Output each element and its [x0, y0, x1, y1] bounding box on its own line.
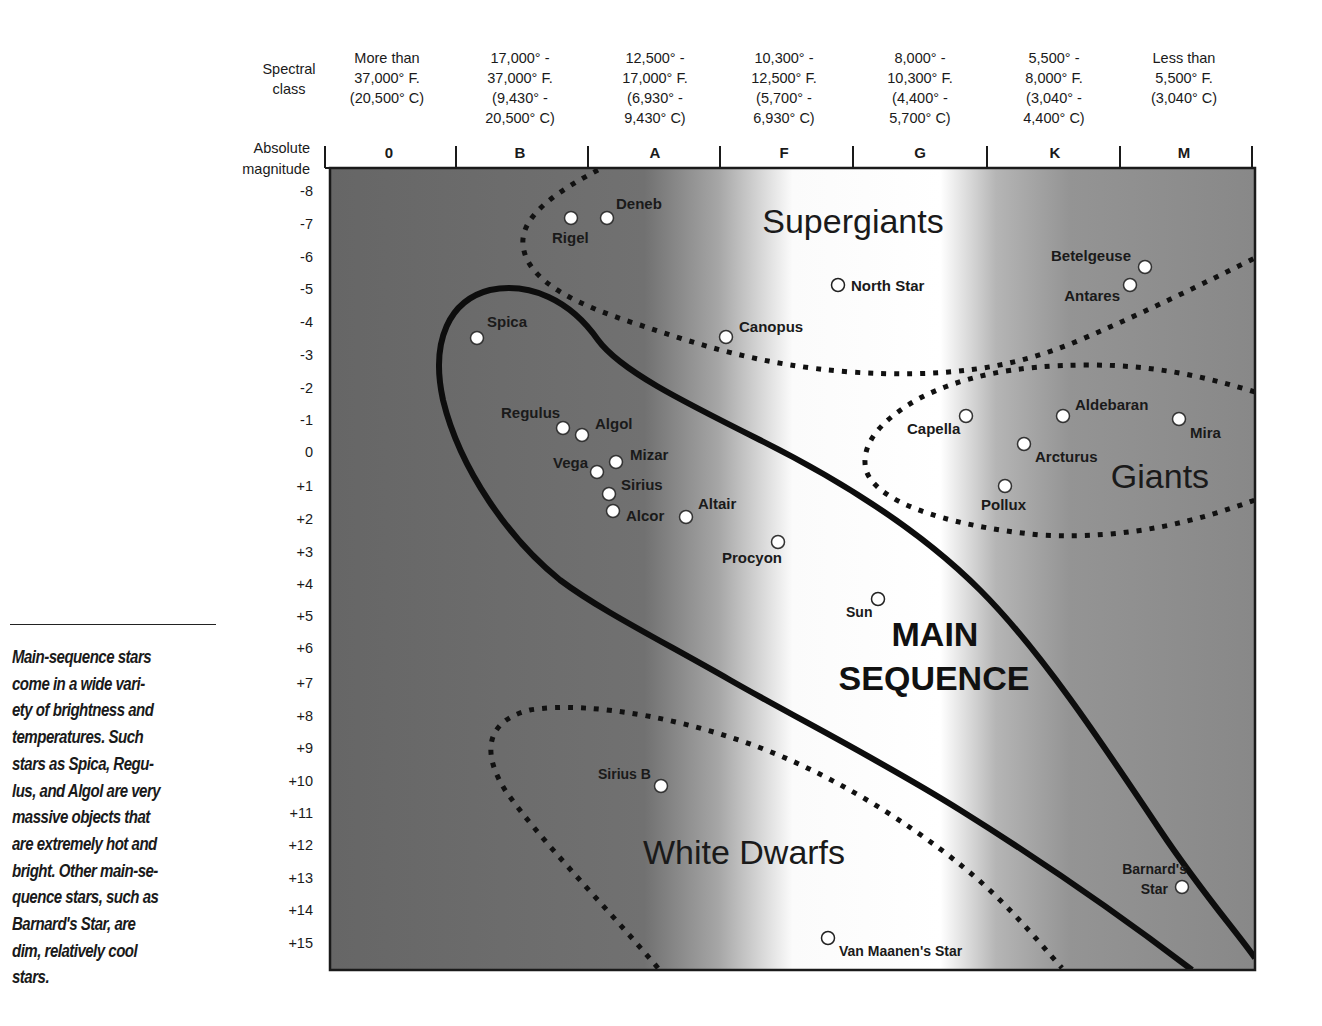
svg-text:Sirius: Sirius [621, 476, 663, 493]
svg-text:(3,040° -: (3,040° - [1026, 90, 1082, 106]
column-header-g: 8,000° - 10,300° F. (4,400° - 5,700° C) [887, 50, 952, 126]
svg-text:-4: -4 [300, 314, 313, 330]
svg-text:SEQUENCE: SEQUENCE [839, 659, 1030, 697]
svg-text:Canopus: Canopus [739, 318, 803, 335]
svg-text:Deneb: Deneb [616, 195, 662, 212]
supergiants-label: Supergiants [762, 202, 943, 240]
star-marker-icon [565, 212, 578, 225]
star-marker-icon [601, 212, 614, 225]
svg-text:MAIN: MAIN [892, 615, 979, 653]
star-marker-icon [960, 410, 973, 423]
svg-text:8,000° F.: 8,000° F. [1025, 70, 1082, 86]
svg-text:Procyon: Procyon [722, 549, 782, 566]
svg-text:17,000° -: 17,000° - [490, 50, 549, 66]
star-marker-icon [832, 279, 845, 292]
svg-text:+13: +13 [288, 870, 313, 886]
column-header-b: 17,000° - 37,000° F. (9,430° - 20,500° C… [485, 50, 554, 126]
svg-text:North Star: North Star [851, 277, 925, 294]
svg-text:(20,500° C): (20,500° C) [350, 90, 424, 106]
svg-text:Regulus: Regulus [501, 404, 560, 421]
svg-text:Vega: Vega [553, 454, 589, 471]
svg-text:Rigel: Rigel [552, 229, 589, 246]
star-marker-icon [999, 480, 1012, 493]
figure-caption: Main-sequence stars come in a wide vari-… [12, 644, 193, 991]
svg-text:class: class [272, 81, 305, 97]
star-marker-icon [471, 332, 484, 345]
svg-text:Absolute: Absolute [254, 140, 310, 156]
svg-text:5,500° -: 5,500° - [1029, 50, 1080, 66]
svg-text:5,700° C): 5,700° C) [889, 110, 950, 126]
star-marker-icon [610, 456, 623, 469]
svg-text:12,500° F.: 12,500° F. [751, 70, 816, 86]
svg-text:A: A [650, 144, 661, 161]
svg-text:F: F [779, 144, 788, 161]
star-marker-icon [603, 488, 616, 501]
svg-text:Alcor: Alcor [626, 507, 665, 524]
spectral-class-axis [325, 146, 1253, 168]
svg-text:10,300° -: 10,300° - [754, 50, 813, 66]
star-marker-icon [772, 536, 785, 549]
svg-text:(5,700° -: (5,700° - [756, 90, 812, 106]
svg-text:+15: +15 [288, 935, 313, 951]
white-dwarfs-label: White Dwarfs [643, 833, 845, 871]
svg-text:+2: +2 [296, 511, 313, 527]
svg-text:4,400° C): 4,400° C) [1023, 110, 1084, 126]
star-marker-icon [1057, 410, 1070, 423]
star-marker-icon [576, 429, 589, 442]
magnitude-ticks: -8 -7 -6 -5 -4 -3 -2 -1 0 +1 +2 +3 +4 +5… [288, 183, 313, 951]
svg-text:+9: +9 [296, 740, 313, 756]
svg-text:20,500° C): 20,500° C) [485, 110, 554, 126]
star-marker-icon [557, 422, 570, 435]
star-marker-icon [607, 505, 620, 518]
svg-text:Sirius B: Sirius B [598, 766, 651, 782]
svg-text:+4: +4 [296, 576, 313, 592]
star-marker-icon [1018, 438, 1031, 451]
hr-diagram-figure: Spectral class More than 37,000° F. (20,… [0, 0, 1322, 1026]
column-header-k: 5,500° - 8,000° F. (3,040° - 4,400° C) [1023, 50, 1084, 126]
svg-text:12,500° -: 12,500° - [625, 50, 684, 66]
column-header-f: 10,300° - 12,500° F. (5,700° - 6,930° C) [751, 50, 816, 126]
svg-text:-8: -8 [300, 183, 313, 199]
svg-text:Aldebaran: Aldebaran [1075, 396, 1148, 413]
svg-text:+3: +3 [296, 544, 313, 560]
column-header-a: 12,500° - 17,000° F. (6,930° - 9,430° C) [622, 50, 687, 126]
svg-text:magnitude: magnitude [242, 161, 310, 177]
svg-text:+5: +5 [296, 608, 313, 624]
svg-text:-2: -2 [300, 380, 313, 396]
star-marker-icon [655, 780, 668, 793]
svg-text:-7: -7 [300, 216, 313, 232]
svg-text:10,300° F.: 10,300° F. [887, 70, 952, 86]
svg-text:M: M [1178, 144, 1191, 161]
temperature-headers: More than 37,000° F. (20,500° C) 17,000°… [350, 50, 1217, 126]
svg-text:6,930° C): 6,930° C) [753, 110, 814, 126]
svg-text:G: G [914, 144, 926, 161]
svg-text:(6,930° -: (6,930° - [627, 90, 683, 106]
svg-text:-6: -6 [300, 249, 313, 265]
svg-text:Less than: Less than [1153, 50, 1216, 66]
svg-text:(9,430° -: (9,430° - [492, 90, 548, 106]
svg-text:-3: -3 [300, 347, 313, 363]
star-marker-icon [822, 932, 835, 945]
svg-text:Altair: Altair [698, 495, 737, 512]
svg-text:Betelgeuse: Betelgeuse [1051, 247, 1131, 264]
svg-text:Spica: Spica [487, 313, 528, 330]
svg-text:Antares: Antares [1064, 287, 1120, 304]
svg-text:Van Maanen's Star: Van Maanen's Star [839, 943, 963, 959]
svg-text:Capella: Capella [907, 420, 961, 437]
svg-text:Mira: Mira [1190, 424, 1222, 441]
absolute-magnitude-label: Absolute magnitude [242, 140, 310, 177]
svg-text:Spectral: Spectral [262, 61, 315, 77]
hr-diagram-chart: Spectral class More than 37,000° F. (20,… [0, 0, 1322, 1026]
svg-text:5,500° F.: 5,500° F. [1155, 70, 1212, 86]
svg-text:K: K [1050, 144, 1061, 161]
svg-text:8,000° -: 8,000° - [895, 50, 946, 66]
caption-divider [10, 624, 216, 625]
svg-text:Mizar: Mizar [630, 446, 669, 463]
svg-text:37,000° F.: 37,000° F. [487, 70, 552, 86]
svg-text:+10: +10 [288, 773, 313, 789]
svg-text:Pollux: Pollux [981, 496, 1027, 513]
svg-text:0: 0 [305, 444, 313, 460]
svg-text:(3,040° C): (3,040° C) [1151, 90, 1217, 106]
star-marker-icon [680, 511, 693, 524]
svg-text:Algol: Algol [595, 415, 633, 432]
